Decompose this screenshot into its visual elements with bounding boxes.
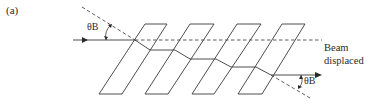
incident-arrow-icon [82,37,88,43]
exit-arc-arrow-base-icon [298,85,302,89]
glass-plate-4 [238,24,305,94]
panel-label: (a) [6,4,18,16]
incident-angle-label: θB [87,21,98,32]
beam-path [73,40,318,75]
exit-arc-arrow-icon [299,75,303,79]
beam-displaced-label: Beam displaced [324,41,364,67]
beam-label-line1: Beam [324,41,364,54]
exit-angle-label: θB [304,75,315,86]
plate-stack-diagram [0,0,371,110]
incident-arc-arrow-base-icon [104,36,108,40]
beam-label-line2: displaced [324,54,364,67]
glass-plate-1 [99,24,167,94]
exit-arrow-icon [315,72,322,78]
